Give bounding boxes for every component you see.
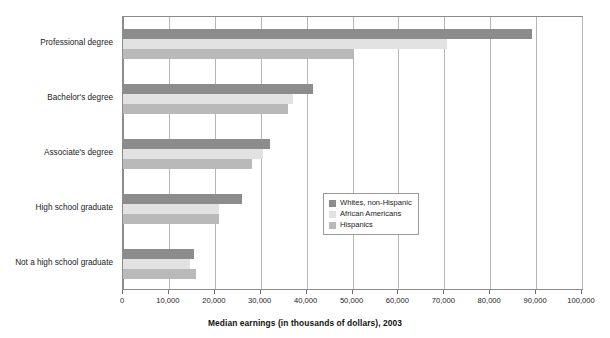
y-axis-label: Professional degree — [0, 39, 113, 47]
y-axis-label: Bachelor's degree — [0, 94, 113, 102]
bar — [123, 139, 270, 149]
legend-label: African Americans — [340, 210, 401, 218]
x-axis-tick — [214, 290, 215, 294]
gridline — [398, 17, 399, 289]
legend-swatch-icon — [329, 211, 336, 218]
x-axis-tick-label: 80,000 — [478, 297, 501, 305]
x-axis-tick-label: 50,000 — [340, 297, 363, 305]
x-axis-tick-label: 20,000 — [202, 297, 225, 305]
x-axis-tick — [122, 290, 123, 294]
bar — [123, 159, 252, 169]
plot-area: Whites, non-HispanicAfrican AmericansHis… — [122, 16, 583, 290]
x-axis-tick-label: 30,000 — [248, 297, 271, 305]
bar — [123, 104, 288, 114]
legend-label: Hispanics — [340, 221, 373, 229]
bar — [123, 204, 219, 214]
legend-item: Hispanics — [329, 220, 412, 230]
x-axis-tick-label: 0 — [120, 297, 124, 305]
x-axis-tick-label: 100,000 — [567, 297, 594, 305]
x-axis-title: Median earnings (in thousands of dollars… — [0, 318, 610, 328]
bar — [123, 39, 447, 49]
bar — [123, 249, 194, 259]
gridline — [490, 17, 491, 289]
bar — [123, 94, 293, 104]
x-axis-tick — [443, 290, 444, 294]
gridline — [353, 17, 354, 289]
x-axis-tick — [306, 290, 307, 294]
legend-swatch-icon — [329, 200, 336, 207]
bar — [123, 49, 353, 59]
legend-label: Whites, non-Hispanic — [340, 199, 412, 207]
x-axis-tick — [535, 290, 536, 294]
legend-item: African Americans — [329, 209, 412, 219]
legend: Whites, non-HispanicAfrican AmericansHis… — [323, 193, 419, 235]
gridline — [444, 17, 445, 289]
y-axis-label: Not a high school graduate — [0, 259, 113, 267]
gridline — [536, 17, 537, 289]
bar — [123, 149, 263, 159]
x-axis-tick-label: 40,000 — [294, 297, 317, 305]
legend-item: Whites, non-Hispanic — [329, 198, 412, 208]
x-axis-tick — [397, 290, 398, 294]
x-axis-tick — [489, 290, 490, 294]
bar — [123, 194, 242, 204]
x-axis-tick-label: 90,000 — [523, 297, 546, 305]
x-axis-tick — [581, 290, 582, 294]
x-axis-tick — [352, 290, 353, 294]
x-axis-tick-label: 70,000 — [432, 297, 455, 305]
bar — [123, 269, 196, 279]
x-axis-tick — [260, 290, 261, 294]
x-axis-tick — [168, 290, 169, 294]
bar — [123, 84, 313, 94]
bar — [123, 259, 190, 269]
y-axis-label: Associate's degree — [0, 149, 113, 157]
bar-chart: Professional degreeBachelor's degreeAsso… — [0, 0, 610, 338]
bar — [123, 29, 532, 39]
legend-swatch-icon — [329, 222, 336, 229]
x-axis-tick-label: 10,000 — [156, 297, 179, 305]
gridline — [582, 17, 583, 289]
y-axis-label: High school graduate — [0, 204, 113, 212]
x-axis-tick-label: 60,000 — [386, 297, 409, 305]
bar — [123, 214, 219, 224]
